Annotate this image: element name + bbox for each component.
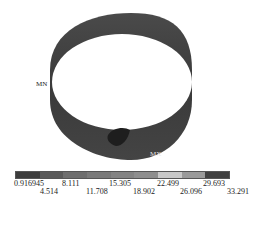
legend-band-9 (205, 172, 229, 178)
max-label: MX (150, 150, 161, 158)
legend-label-2: 8.111 (62, 179, 79, 188)
legend-label-8: 29.693 (203, 179, 225, 188)
legend-band-2 (40, 172, 64, 178)
legend-band-8 (182, 172, 206, 178)
legend-band-5 (111, 172, 135, 178)
legend-label-7: 26.096 (180, 187, 202, 196)
cylinder-opening (52, 34, 192, 130)
legend-band-3 (63, 172, 87, 178)
legend-label-3: 11.708 (86, 187, 108, 196)
legend-colorbar (15, 171, 230, 179)
legend-label-5: 18.902 (133, 187, 155, 196)
legend-label-6: 22.499 (157, 179, 179, 188)
legend-band-6 (134, 172, 158, 178)
legend-band-1 (16, 172, 40, 178)
legend-band-7 (158, 172, 182, 178)
legend-label-9: 33.291 (227, 187, 249, 196)
legend-band-4 (87, 172, 111, 178)
legend-label-1: 4.514 (40, 187, 58, 196)
legend-label-4: 15.305 (109, 179, 131, 188)
min-label: MN (36, 80, 47, 88)
